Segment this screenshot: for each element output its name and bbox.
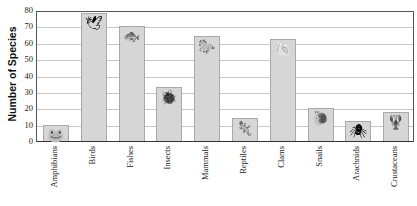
x-tick-label: Reptiles: [238, 146, 252, 206]
lizard-icon: 🦎: [236, 122, 253, 136]
fish-icon: 🐟: [123, 30, 140, 44]
y-tick-label: 10: [0, 120, 33, 130]
beetle-icon: 🐞: [160, 91, 177, 105]
y-tick-label: 80: [0, 5, 33, 15]
chart-title-cropped: [0, 0, 417, 4]
y-tick-label: 20: [0, 103, 33, 113]
bird-icon: 🕊: [85, 17, 103, 31]
y-tick-label: 70: [0, 21, 33, 31]
x-tick-label: Snails: [314, 146, 328, 206]
x-tick-label: Arachnids: [351, 146, 365, 206]
clam-icon: 🐚: [274, 43, 291, 57]
bar-birds: [81, 13, 107, 141]
x-tick-label: Fishes: [125, 146, 139, 206]
y-tick-label: 50: [0, 54, 33, 64]
x-tick-label: Birds: [87, 146, 101, 206]
x-tick-label: Clams: [276, 146, 290, 206]
x-tick-label: Insects: [162, 146, 176, 206]
y-tick-label: 30: [0, 87, 33, 97]
lobster-icon: 🦞: [387, 116, 404, 130]
y-tick-label: 60: [0, 38, 33, 48]
y-tick-label: 40: [0, 71, 33, 81]
x-tick-label: Amphibians: [49, 146, 63, 206]
frog-icon: 🐸: [47, 129, 64, 143]
plot-area: 🐸🕊🐟🐞🐎🦎🐚🐌🕷🦞: [36, 11, 414, 142]
x-tick-label: Crustaceans: [389, 146, 403, 206]
spider-icon: 🕷: [349, 125, 367, 139]
x-tick-label: Mammals: [200, 146, 214, 206]
horse-icon: 🐎: [198, 40, 215, 54]
y-tick-label: 0: [0, 136, 33, 146]
snail-icon: 🐌: [312, 112, 329, 126]
